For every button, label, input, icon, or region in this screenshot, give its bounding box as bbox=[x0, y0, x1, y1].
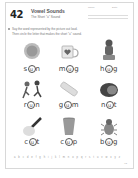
vowel-circle[interactable]: u bbox=[66, 65, 74, 73]
word-run: run bbox=[12, 101, 52, 109]
item-cut: cut bbox=[12, 116, 52, 156]
instruction-line-1: Say the word represented by the picture … bbox=[12, 27, 78, 31]
nut-icon bbox=[98, 80, 120, 100]
vowel-circle[interactable]: u bbox=[105, 65, 113, 73]
item-sun: sun bbox=[12, 41, 52, 81]
bullet-icon bbox=[8, 28, 10, 30]
word-nut: nut bbox=[89, 101, 129, 109]
vowel-circle[interactable]: u bbox=[105, 138, 113, 146]
sun-icon bbox=[22, 41, 42, 61]
word-cup: cup bbox=[49, 138, 89, 146]
item-bug: bug bbox=[89, 116, 129, 156]
gum-icon bbox=[58, 80, 80, 100]
page-title: Vowel Sounds bbox=[31, 8, 65, 14]
vowel-circle[interactable]: u bbox=[106, 101, 114, 109]
item-mug: mug bbox=[49, 41, 89, 81]
instruction-line-2: Then circle the letter that makes the sh… bbox=[12, 32, 82, 36]
name-field-label: Name bbox=[88, 6, 95, 9]
run-icon bbox=[21, 80, 43, 100]
word-sun: sun bbox=[12, 65, 52, 73]
name-field-line bbox=[88, 15, 128, 16]
date-field-label: Date bbox=[112, 6, 117, 9]
lesson-number: 42 bbox=[10, 9, 23, 20]
word-cut: cut bbox=[12, 138, 52, 146]
cut-icon bbox=[21, 116, 43, 138]
item-run: run bbox=[12, 80, 52, 120]
page-subtitle: The Short "u" Sound bbox=[31, 15, 60, 19]
word-mug: mug bbox=[49, 65, 89, 73]
word-hug: hug bbox=[89, 65, 129, 73]
vowel-circle[interactable]: u bbox=[29, 138, 37, 146]
item-hug: hug bbox=[89, 38, 129, 78]
alphabet-strip: a b c d e f g h i j k l m n o p q r s t … bbox=[14, 156, 121, 159]
vowel-circle[interactable]: u bbox=[64, 101, 72, 109]
item-gum: gum bbox=[49, 80, 89, 120]
item-nut: nut bbox=[89, 80, 129, 120]
mug-icon bbox=[59, 41, 79, 61]
word-gum: gum bbox=[49, 101, 89, 109]
bug-icon bbox=[99, 116, 119, 138]
item-cup: cup bbox=[49, 116, 89, 156]
date-field-line bbox=[88, 18, 128, 19]
word-bug: bug bbox=[89, 138, 129, 146]
cup-icon bbox=[59, 116, 79, 138]
page-number: 43 bbox=[124, 162, 127, 165]
vowel-circle[interactable]: u bbox=[28, 65, 36, 73]
vowel-circle[interactable]: u bbox=[65, 138, 73, 146]
hug-icon bbox=[99, 38, 119, 62]
